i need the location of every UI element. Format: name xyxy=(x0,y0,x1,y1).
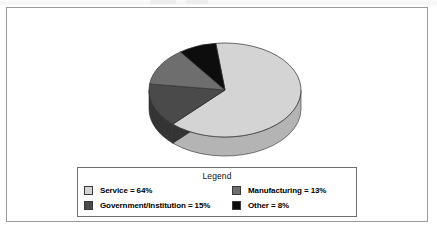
legend: Legend Service = 64% Manufacturing = 13%… xyxy=(77,167,357,217)
legend-label-government-institution: Government/Institution = 15% xyxy=(100,201,210,210)
chart-frame: Legend Service = 64% Manufacturing = 13%… xyxy=(6,7,428,222)
legend-item-service: Service = 64% xyxy=(84,183,232,198)
legend-item-government-institution: Government/Institution = 15% xyxy=(84,198,232,213)
legend-swatch-manufacturing xyxy=(232,186,241,195)
legend-item-other: Other = 8% xyxy=(232,198,356,213)
pie-chart-svg xyxy=(143,16,313,166)
legend-title: Legend xyxy=(78,171,356,181)
legend-item-manufacturing: Manufacturing = 13% xyxy=(232,183,356,198)
legend-label-service: Service = 64% xyxy=(100,186,152,195)
legend-label-manufacturing: Manufacturing = 13% xyxy=(248,186,326,195)
scan-artifact xyxy=(0,0,437,6)
legend-swatch-service xyxy=(84,186,93,195)
pie-chart xyxy=(143,16,313,166)
legend-swatch-other xyxy=(232,201,241,210)
legend-grid: Service = 64% Manufacturing = 13% Govern… xyxy=(78,183,356,213)
legend-swatch-government-institution xyxy=(84,201,93,210)
legend-label-other: Other = 8% xyxy=(248,201,289,210)
